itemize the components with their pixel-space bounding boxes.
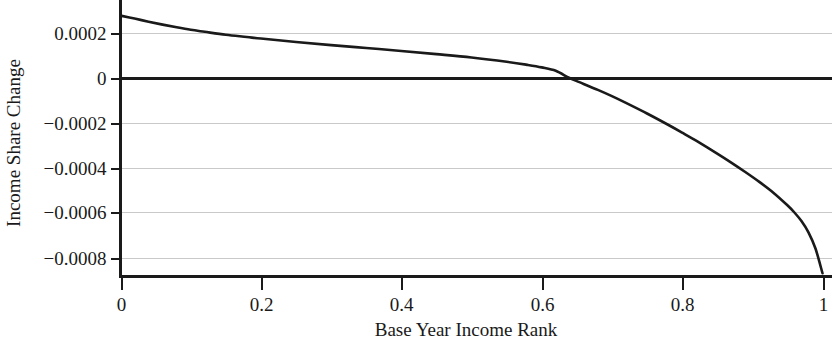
income-share-change-line-chart: 0.00020−0.0002−0.0004−0.0006−0.0008 00.2… [0,0,832,342]
y-tick-label: 0 [97,68,107,89]
x-tick-label: 0.8 [671,294,695,315]
x-tick-label: 0.4 [390,294,414,315]
x-tick-label: 0.6 [531,294,555,315]
x-tick-label: 0 [117,294,127,315]
y-axis-title: Income Share Change [3,59,24,227]
y-tick-label: −0.0002 [44,113,107,134]
chart-figure: 0.00020−0.0002−0.0004−0.0006−0.0008 00.2… [0,0,832,342]
x-axis-title: Base Year Income Rank [375,319,558,340]
y-tick-label: 0.0002 [54,23,106,44]
x-tick-label: 1 [819,294,829,315]
y-tick-label: −0.0008 [44,248,107,269]
y-tick-label: −0.0006 [44,202,107,223]
x-tick-label: 0.2 [250,294,274,315]
y-tick-label: −0.0004 [44,158,107,179]
